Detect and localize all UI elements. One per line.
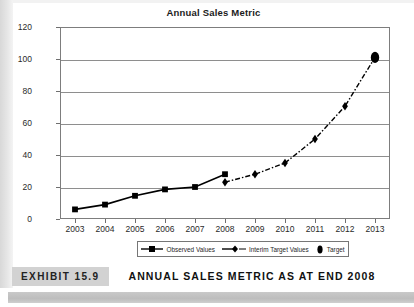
chart-figure: Annual Sales Metric 02040608010012020032… xyxy=(13,2,414,260)
x-axis-tick-label: 2007 xyxy=(178,224,212,234)
legend-label-interim-target-values: Interim Target Values xyxy=(249,246,309,253)
legend-item-observed-values[interactable]: Observed Values xyxy=(141,245,215,253)
data-point-observed-values xyxy=(102,202,108,208)
x-axis-tick-mark xyxy=(75,219,76,223)
y-axis-tick-label: 60 xyxy=(0,118,32,128)
data-point-target xyxy=(371,52,379,63)
data-point-interim-target-values xyxy=(282,159,288,167)
y-axis-tick-label: 100 xyxy=(0,54,32,64)
x-axis-tick-label: 2012 xyxy=(328,224,362,234)
y-axis-tick-label: 20 xyxy=(0,182,32,192)
legend-swatch-observed-values xyxy=(141,245,163,253)
y-axis-tick-label: 0 xyxy=(0,214,32,224)
x-axis-tick-mark xyxy=(315,219,316,223)
x-axis-tick-label: 2003 xyxy=(58,224,92,234)
page-bottom-bar xyxy=(8,292,414,303)
x-axis-tick-mark xyxy=(375,219,376,223)
y-axis-tick-label: 120 xyxy=(0,22,32,32)
data-point-observed-values xyxy=(162,187,168,193)
legend-item-interim-target-values[interactable]: Interim Target Values xyxy=(222,245,309,253)
data-point-interim-target-values xyxy=(222,178,228,186)
x-axis-tick-label: 2009 xyxy=(238,224,272,234)
y-axis-tick-label: 40 xyxy=(0,150,32,160)
x-axis-tick-label: 2004 xyxy=(88,224,122,234)
x-axis-tick-label: 2005 xyxy=(118,224,152,234)
scan-left-band-artifact xyxy=(0,0,13,288)
legend-label-target: Target xyxy=(327,246,345,253)
x-axis-tick-mark xyxy=(285,219,286,223)
exhibit-caption: EXHIBIT 15.9 ANNUAL SALES METRIC AS AT E… xyxy=(0,264,414,288)
data-point-observed-values xyxy=(222,171,228,177)
x-axis-tick-mark xyxy=(165,219,166,223)
y-axis-tick-mark xyxy=(56,219,60,220)
x-axis-tick-mark xyxy=(135,219,136,223)
exhibit-title: ANNUAL SALES METRIC AS AT END 2008 xyxy=(129,270,376,282)
x-axis-tick-mark xyxy=(225,219,226,223)
series-line-observed-values xyxy=(75,174,225,209)
data-point-observed-values xyxy=(72,207,78,213)
data-point-observed-values xyxy=(132,193,138,199)
x-axis-tick-mark xyxy=(345,219,346,223)
x-axis-tick-label: 2013 xyxy=(358,224,392,234)
series-layer xyxy=(60,27,390,219)
legend-label-observed-values: Observed Values xyxy=(166,246,215,253)
chart-legend: Observed Values Interim Target Values Ta… xyxy=(137,241,349,257)
exhibit-number: EXHIBIT 15.9 xyxy=(12,267,109,286)
legend-item-target[interactable]: Target xyxy=(316,245,345,254)
chart-title: Annual Sales Metric xyxy=(13,7,414,18)
data-point-interim-target-values xyxy=(252,170,258,178)
data-point-observed-values xyxy=(192,184,198,190)
x-axis-tick-label: 2010 xyxy=(268,224,302,234)
y-axis-tick-label: 80 xyxy=(0,86,32,96)
legend-swatch-target xyxy=(316,245,324,254)
legend-swatch-interim-target-values xyxy=(222,245,246,253)
x-axis-tick-mark xyxy=(195,219,196,223)
x-axis-tick-mark xyxy=(255,219,256,223)
x-axis-tick-label: 2008 xyxy=(208,224,242,234)
x-axis-tick-label: 2006 xyxy=(148,224,182,234)
series-line-interim-target-values xyxy=(225,57,375,182)
x-axis-tick-label: 2011 xyxy=(298,224,332,234)
x-axis-tick-mark xyxy=(105,219,106,223)
